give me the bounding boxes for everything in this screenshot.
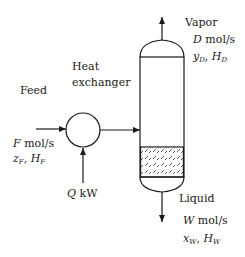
vapor-flow-var: D <box>193 33 202 46</box>
vapor-enth-sub: D <box>221 56 227 64</box>
liquid-region <box>141 147 184 177</box>
vapor-enth-var: H <box>212 50 222 63</box>
feed-enth-sub: F <box>40 158 45 166</box>
vapor-sep: , <box>205 50 212 63</box>
heat-exchanger-label-line2: exchanger <box>72 76 130 89</box>
feed-flow-unit: mol/s <box>24 137 54 150</box>
heat-duty-var: Q <box>67 187 76 200</box>
liquid-enth-sub: W <box>213 238 220 246</box>
feed-enth-var: H <box>31 152 41 165</box>
heat-exchanger-circle <box>66 113 100 147</box>
feed-flow-label: F mol/s <box>13 137 54 150</box>
vapor-flow-label: D mol/s <box>193 33 235 46</box>
liquid-enth-var: H <box>203 232 213 245</box>
liquid-flow-var: W <box>183 214 194 227</box>
heat-duty-label: Q kW <box>67 187 98 200</box>
liquid-flow-label: W mol/s <box>183 214 228 227</box>
feed-props-label: zF, HF <box>13 152 45 169</box>
bottom-dome <box>140 177 184 192</box>
liquid-flow-unit: mol/s <box>198 214 228 227</box>
vapor-flow-unit: mol/s <box>205 33 235 46</box>
liquid-props-label: xW, HW <box>183 232 220 249</box>
heat-duty-unit: kW <box>80 187 98 200</box>
feed-sep: , <box>24 152 31 165</box>
vapor-label: Vapor <box>185 16 217 29</box>
vapor-props-label: yD, HD <box>193 50 227 67</box>
liquid-label: Liquid <box>179 192 215 205</box>
heat-exchanger-label-line1: Heat <box>72 60 99 73</box>
feed-flow-var: F <box>13 137 21 150</box>
top-dome <box>140 40 184 57</box>
feed-label: Feed <box>20 84 47 97</box>
